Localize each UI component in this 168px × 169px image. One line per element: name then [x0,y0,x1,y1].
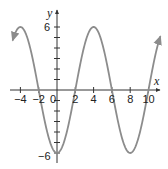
x-tick-label: 10 [142,93,154,105]
x-tick-labels: −4−20246810 [14,93,154,105]
x-tick-label: 6 [109,93,115,105]
y-max-label: 6 [44,21,50,33]
x-tick-label: −4 [14,93,27,105]
x-tick-label: −2 [32,93,45,105]
x-axis-label: x [153,74,160,88]
y-min-label: −6 [38,150,51,162]
sine-graph: y x 6 −6 −4−20246810 [0,0,168,169]
x-tick-label: 8 [127,93,133,105]
x-tick-label: 2 [72,93,78,105]
x-tick-label: 0 [50,93,56,105]
y-axis-label: y [46,6,53,20]
x-tick-label: 4 [91,93,97,105]
